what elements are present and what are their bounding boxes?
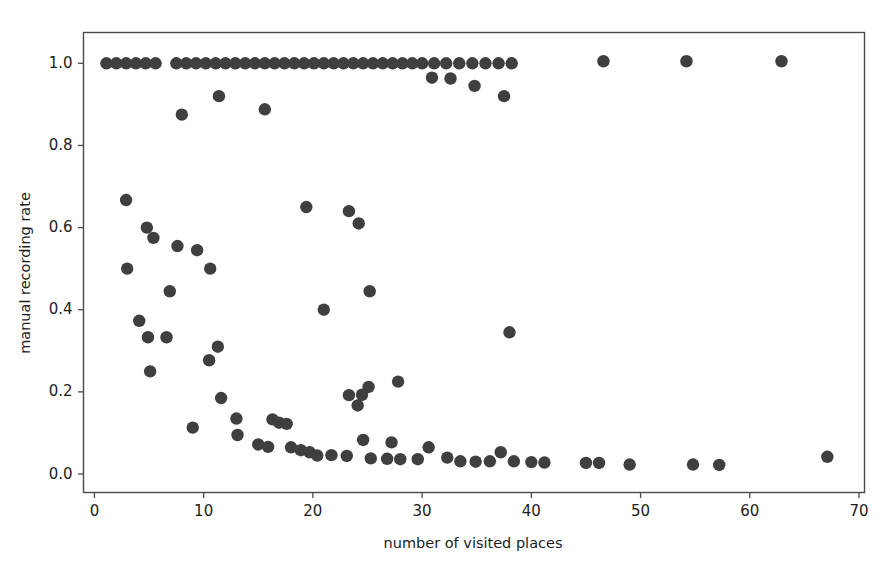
scatter-point bbox=[262, 441, 274, 453]
scatter-point bbox=[466, 57, 478, 69]
x-tick-label: 40 bbox=[522, 502, 541, 520]
scatter-point bbox=[343, 205, 355, 217]
scatter-point bbox=[381, 453, 393, 465]
scatter-point bbox=[311, 449, 323, 461]
scatter-point bbox=[141, 221, 153, 233]
scatter-point bbox=[440, 57, 452, 69]
scatter-plot-figure: 010203040506070 0.00.20.40.60.81.0 numbe… bbox=[0, 0, 892, 579]
scatter-point bbox=[231, 429, 243, 441]
scatter-point bbox=[597, 55, 609, 67]
scatter-point bbox=[454, 455, 466, 467]
scatter-point bbox=[422, 441, 434, 453]
scatter-point bbox=[593, 457, 605, 469]
scatter-point bbox=[453, 57, 465, 69]
scatter-point bbox=[149, 57, 161, 69]
scatter-point bbox=[147, 232, 159, 244]
scatter-point bbox=[142, 331, 154, 343]
scatter-point bbox=[164, 285, 176, 297]
scatter-point bbox=[503, 326, 515, 338]
scatter-point bbox=[171, 240, 183, 252]
scatter-point bbox=[204, 262, 216, 274]
scatter-point bbox=[428, 57, 440, 69]
scatter-point bbox=[187, 421, 199, 433]
x-axis-label: number of visited places bbox=[384, 535, 563, 551]
scatter-point bbox=[363, 285, 375, 297]
scatter-point bbox=[713, 459, 725, 471]
y-axis-label: manual recording rate bbox=[17, 192, 33, 354]
y-tick-label: 0.6 bbox=[49, 218, 73, 236]
scatter-point bbox=[120, 194, 132, 206]
scatter-point bbox=[385, 436, 397, 448]
scatter-point bbox=[775, 55, 787, 67]
scatter-point bbox=[325, 449, 337, 461]
scatter-point bbox=[133, 315, 145, 327]
scatter-point bbox=[365, 452, 377, 464]
scatter-point bbox=[484, 455, 496, 467]
scatter-point bbox=[680, 55, 692, 67]
scatter-point bbox=[538, 456, 550, 468]
scatter-point bbox=[498, 90, 510, 102]
scatter-point bbox=[203, 354, 215, 366]
scatter-point bbox=[121, 262, 133, 274]
scatter-point bbox=[495, 446, 507, 458]
scatter-point bbox=[176, 108, 188, 120]
x-tick-label: 70 bbox=[849, 502, 868, 520]
scatter-point bbox=[821, 451, 833, 463]
scatter-point bbox=[160, 331, 172, 343]
scatter-point bbox=[394, 453, 406, 465]
x-tick-label: 30 bbox=[413, 502, 432, 520]
scatter-point bbox=[191, 244, 203, 256]
plot-canvas: 010203040506070 0.00.20.40.60.81.0 numbe… bbox=[0, 0, 892, 579]
x-tick-label: 20 bbox=[303, 502, 322, 520]
scatter-point bbox=[357, 434, 369, 446]
scatter-point bbox=[213, 90, 225, 102]
y-tick-label: 1.0 bbox=[49, 54, 73, 72]
scatter-point bbox=[508, 455, 520, 467]
scatter-point bbox=[468, 80, 480, 92]
scatter-point bbox=[623, 458, 635, 470]
scatter-point bbox=[492, 57, 504, 69]
y-tick-label: 0.0 bbox=[49, 465, 73, 483]
scatter-point bbox=[525, 456, 537, 468]
y-tick-label: 0.8 bbox=[49, 136, 73, 154]
scatter-point bbox=[259, 103, 271, 115]
scatter-point bbox=[144, 365, 156, 377]
scatter-point bbox=[341, 450, 353, 462]
scatter-point bbox=[318, 304, 330, 316]
scatter-point bbox=[444, 72, 456, 84]
x-tick-label: 0 bbox=[90, 502, 100, 520]
scatter-point bbox=[356, 389, 368, 401]
scatter-point bbox=[212, 341, 224, 353]
scatter-point bbox=[479, 57, 491, 69]
scatter-point bbox=[392, 375, 404, 387]
x-tick-label: 10 bbox=[194, 502, 213, 520]
scatter-point bbox=[416, 57, 428, 69]
y-tick-label: 0.4 bbox=[49, 300, 73, 318]
scatter-point bbox=[469, 456, 481, 468]
scatter-point bbox=[426, 71, 438, 83]
scatter-point bbox=[215, 392, 227, 404]
scatter-point bbox=[580, 457, 592, 469]
scatter-point bbox=[230, 412, 242, 424]
scatter-point bbox=[505, 57, 517, 69]
scatter-point bbox=[351, 399, 363, 411]
scatter-point bbox=[441, 451, 453, 463]
scatter-point bbox=[280, 418, 292, 430]
scatter-point bbox=[300, 201, 312, 213]
x-tick-label: 50 bbox=[631, 502, 650, 520]
scatter-point bbox=[353, 217, 365, 229]
x-tick-label: 60 bbox=[740, 502, 759, 520]
scatter-point bbox=[687, 458, 699, 470]
scatter-point bbox=[343, 389, 355, 401]
scatter-point bbox=[412, 453, 424, 465]
y-tick-label: 0.2 bbox=[49, 382, 73, 400]
